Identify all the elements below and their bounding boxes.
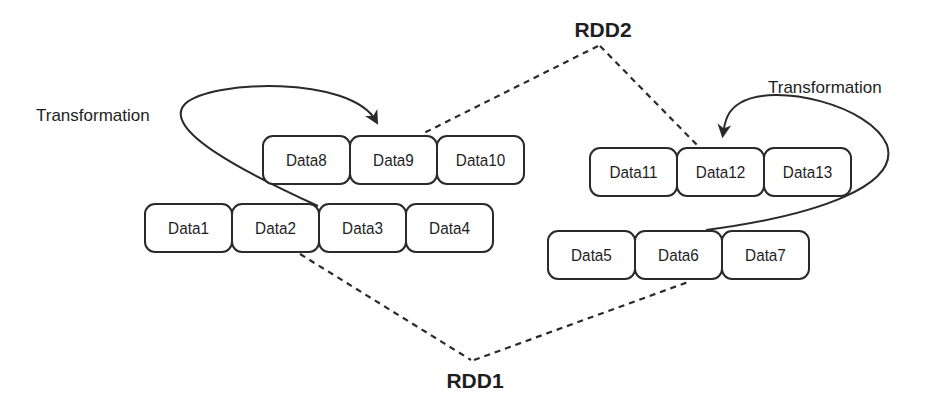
partition-group-rdd1-left: Data1Data2Data3Data4 xyxy=(145,204,493,252)
partition-data2: Data2 xyxy=(232,204,319,252)
partition-data6: Data6 xyxy=(635,231,722,279)
partition-data11: Data11 xyxy=(590,148,677,196)
partition-label: Data3 xyxy=(342,218,383,237)
partition-group-rdd2-right: Data11Data12Data13 xyxy=(590,148,851,196)
partition-label: Data8 xyxy=(286,150,327,169)
partition-data7: Data7 xyxy=(722,231,809,279)
transformation-label-right: Transformation xyxy=(768,78,882,97)
transformation-label-left: Transformation xyxy=(36,106,150,125)
partition-label: Data10 xyxy=(456,150,505,169)
rdd1-link-left xyxy=(300,254,471,360)
partition-label: Data2 xyxy=(255,218,296,237)
partition-label: Data5 xyxy=(571,245,612,264)
partition-label: Data13 xyxy=(783,162,832,181)
rdd1-label: RDD1 xyxy=(446,369,503,392)
partition-label: Data4 xyxy=(429,218,470,237)
partition-data10: Data10 xyxy=(437,136,524,184)
partition-label: Data1 xyxy=(168,218,209,237)
partition-data9: Data9 xyxy=(350,136,437,184)
partition-data12: Data12 xyxy=(677,148,764,196)
rdd2-link-left xyxy=(422,46,598,134)
rdd-diagram: Data8Data9Data10 Data1Data2Data3Data4 Da… xyxy=(0,0,931,406)
partition-group-rdd1-right: Data5Data6Data7 xyxy=(548,231,809,279)
rdd1-link-right xyxy=(474,282,688,360)
partition-label: Data7 xyxy=(745,245,786,264)
partition-data13: Data13 xyxy=(764,148,851,196)
partition-data1: Data1 xyxy=(145,204,232,252)
partition-group-rdd2-left: Data8Data9Data10 xyxy=(263,136,524,184)
partition-label: Data6 xyxy=(658,245,699,264)
partition-label: Data11 xyxy=(609,162,657,181)
partition-label: Data12 xyxy=(696,162,745,181)
partition-data3: Data3 xyxy=(319,204,406,252)
partition-data8: Data8 xyxy=(263,136,350,184)
partition-label: Data9 xyxy=(373,150,414,169)
rdd2-label: RDD2 xyxy=(574,18,631,41)
partition-data5: Data5 xyxy=(548,231,635,279)
partition-data4: Data4 xyxy=(406,204,493,252)
rdd2-link-right xyxy=(600,46,700,148)
